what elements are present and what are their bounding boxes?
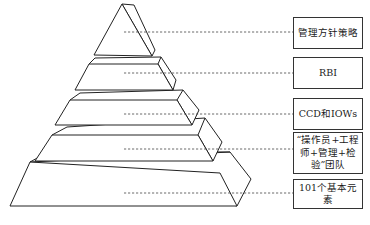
tier-label-5-text: 101个基本元素: [296, 182, 360, 207]
tier-label-5: 101个基本元素: [293, 179, 363, 209]
tier-label-1-text: 管理方针策略: [298, 27, 358, 40]
tier-label-2-text: RBI: [319, 67, 337, 80]
tier-label-2: RBI: [293, 57, 363, 89]
tier-label-3: CCD和IOWs: [293, 98, 363, 130]
tier-label-4: “操作员+工程师+管理+检验”团队: [293, 132, 363, 174]
tier-label-4-text: “操作员+工程师+管理+检验”团队: [296, 134, 360, 172]
tier-label-1: 管理方针策略: [293, 17, 363, 49]
pyramid-tier-1: [94, 4, 155, 56]
pyramid-tier-2: [75, 57, 176, 90]
tier-label-3-text: CCD和IOWs: [299, 108, 357, 121]
pyramid-tier-3: [55, 90, 199, 125]
